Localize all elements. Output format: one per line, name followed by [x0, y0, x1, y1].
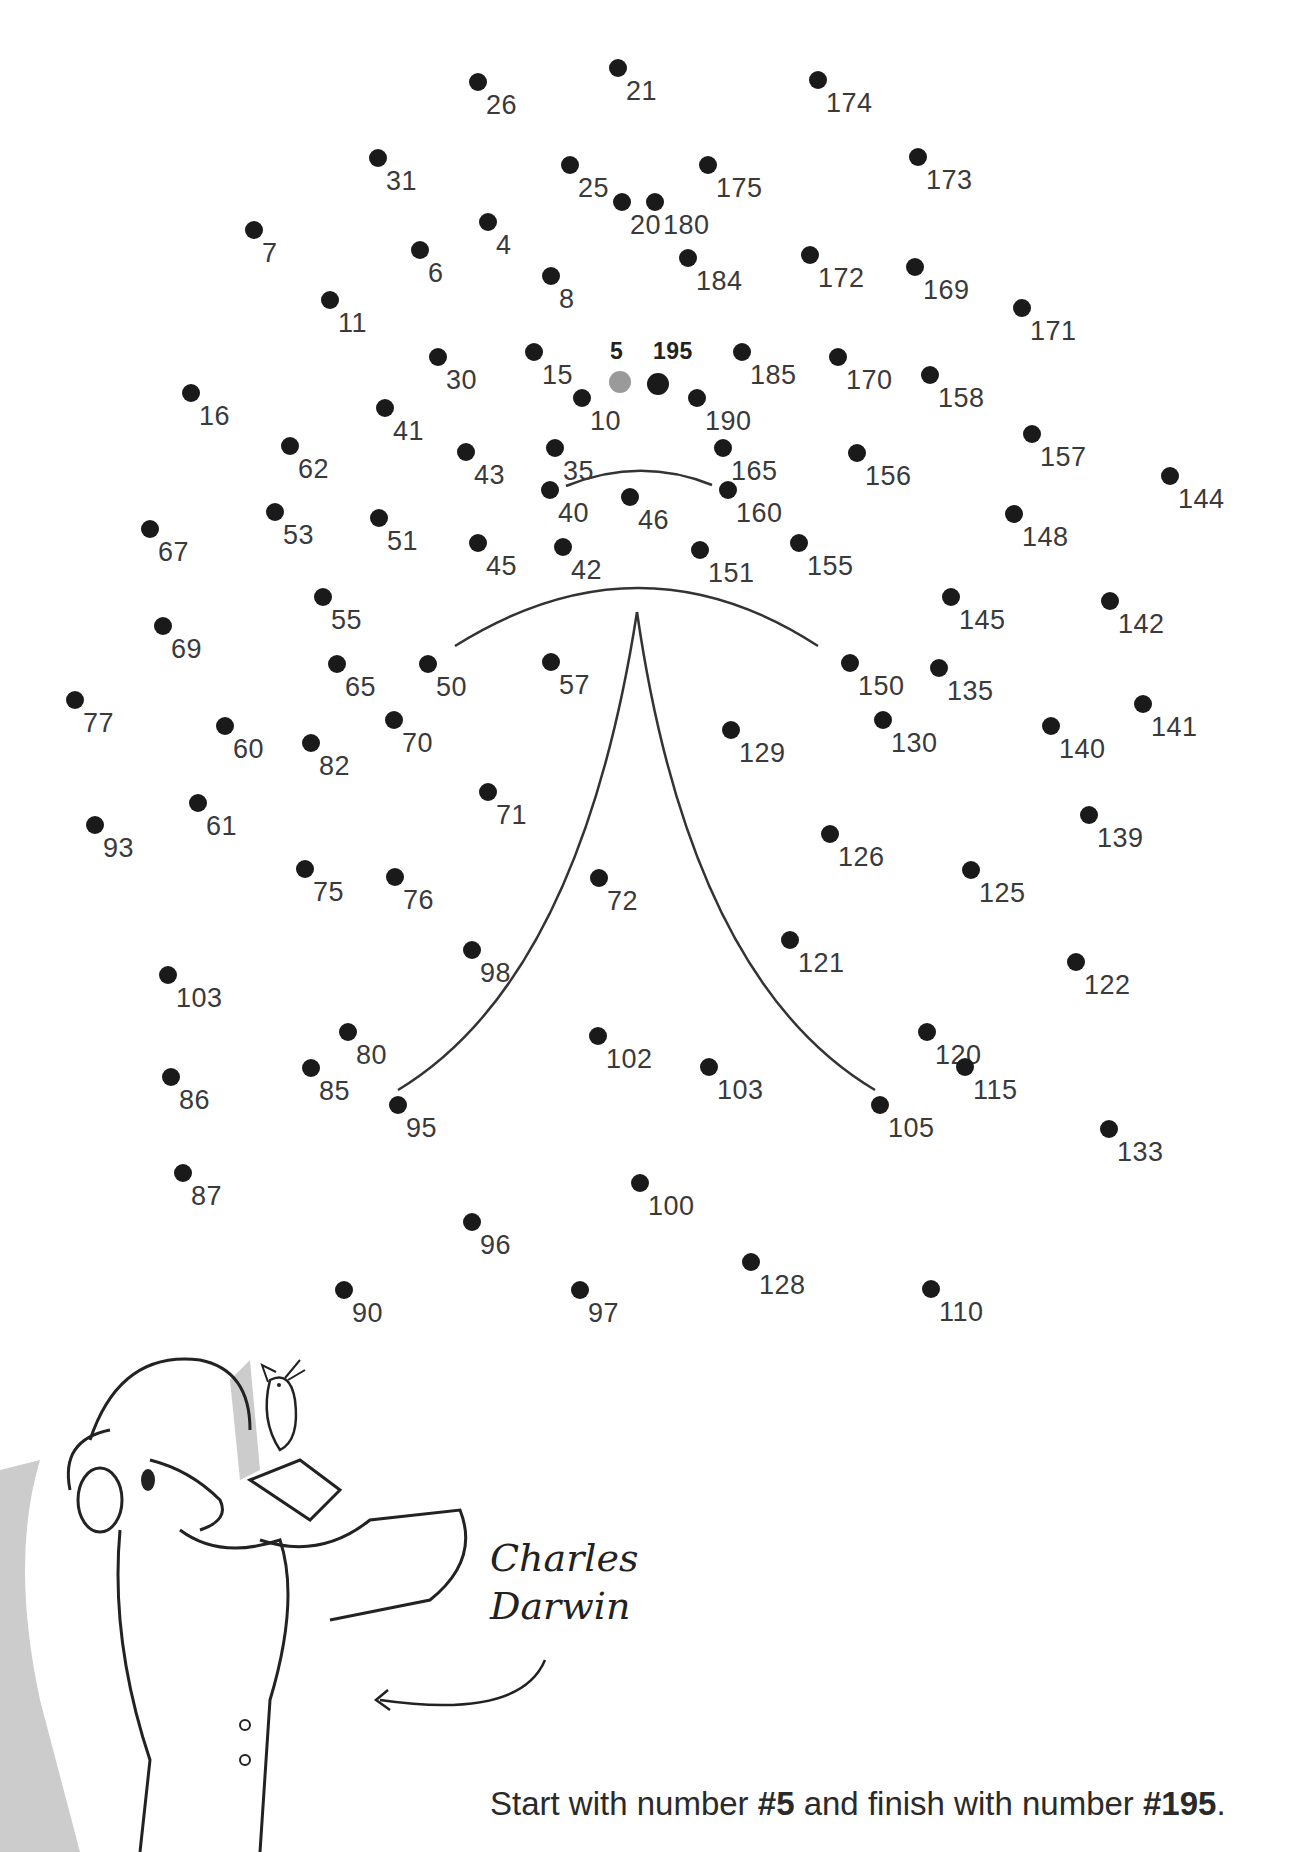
- dot-7[interactable]: [245, 221, 263, 239]
- dot-70[interactable]: [385, 711, 403, 729]
- instructions-middle: and finish with number: [795, 1785, 1144, 1822]
- dot-165[interactable]: [714, 439, 732, 457]
- dot-125[interactable]: [962, 861, 980, 879]
- dot-129[interactable]: [722, 721, 740, 739]
- dot-169[interactable]: [906, 258, 924, 276]
- dot-30[interactable]: [429, 348, 447, 366]
- dot-90[interactable]: [335, 1281, 353, 1299]
- dot-4[interactable]: [479, 213, 497, 231]
- dot-145[interactable]: [942, 588, 960, 606]
- dot-53[interactable]: [266, 503, 284, 521]
- dot-46[interactable]: [621, 488, 639, 506]
- dot-158[interactable]: [921, 366, 939, 384]
- dot-142[interactable]: [1101, 592, 1119, 610]
- dot-174[interactable]: [809, 71, 827, 89]
- dot-100[interactable]: [631, 1174, 649, 1192]
- dot-160[interactable]: [719, 481, 737, 499]
- dot-50[interactable]: [419, 655, 437, 673]
- dot-185[interactable]: [733, 343, 751, 361]
- dot-16[interactable]: [182, 384, 200, 402]
- dot-180[interactable]: [646, 193, 664, 211]
- dot-121[interactable]: [781, 931, 799, 949]
- dot-110[interactable]: [922, 1280, 940, 1298]
- dot-15[interactable]: [525, 343, 543, 361]
- dot-105[interactable]: [871, 1096, 889, 1114]
- dot-6[interactable]: [411, 241, 429, 259]
- dot-20[interactable]: [613, 193, 631, 211]
- dot-77[interactable]: [66, 691, 84, 709]
- dot-173[interactable]: [909, 148, 927, 166]
- finish-dot[interactable]: [647, 373, 669, 395]
- dot-95[interactable]: [389, 1096, 407, 1114]
- dot-135[interactable]: [930, 659, 948, 677]
- dot-55[interactable]: [314, 588, 332, 606]
- dot-61[interactable]: [189, 794, 207, 812]
- dot-label: 15: [542, 362, 573, 389]
- dot-85[interactable]: [302, 1059, 320, 1077]
- dot-51[interactable]: [370, 509, 388, 527]
- dot-41[interactable]: [376, 399, 394, 417]
- dot-72[interactable]: [590, 869, 608, 887]
- dot-96[interactable]: [463, 1213, 481, 1231]
- dot-141[interactable]: [1134, 695, 1152, 713]
- dot-98[interactable]: [463, 941, 481, 959]
- dot-31[interactable]: [369, 149, 387, 167]
- dot-11[interactable]: [321, 291, 339, 309]
- dot-139[interactable]: [1080, 806, 1098, 824]
- dot-102[interactable]: [589, 1027, 607, 1045]
- dot-69[interactable]: [154, 617, 172, 635]
- dot-170[interactable]: [829, 348, 847, 366]
- dot-43[interactable]: [457, 443, 475, 461]
- dot-42[interactable]: [554, 538, 572, 556]
- dot-115[interactable]: [956, 1058, 974, 1076]
- dot-97[interactable]: [571, 1281, 589, 1299]
- dot-126[interactable]: [821, 825, 839, 843]
- dot-80[interactable]: [339, 1023, 357, 1041]
- dot-130[interactable]: [874, 711, 892, 729]
- dot-25[interactable]: [561, 156, 579, 174]
- dot-133[interactable]: [1100, 1120, 1118, 1138]
- dot-175[interactable]: [699, 156, 717, 174]
- dot-label: 122: [1084, 972, 1131, 999]
- dot-35[interactable]: [546, 439, 564, 457]
- dot-67[interactable]: [141, 520, 159, 538]
- dot-87[interactable]: [174, 1164, 192, 1182]
- dot-190[interactable]: [688, 389, 706, 407]
- dot-151[interactable]: [691, 541, 709, 559]
- caption-line-2: Darwin: [490, 1583, 639, 1631]
- dot-21[interactable]: [609, 59, 627, 77]
- dot-label: 43: [474, 462, 505, 489]
- dot-156[interactable]: [848, 444, 866, 462]
- dot-157[interactable]: [1023, 425, 1041, 443]
- dot-45[interactable]: [469, 534, 487, 552]
- dot-128[interactable]: [742, 1253, 760, 1271]
- dot-103[interactable]: [159, 966, 177, 984]
- dot-60[interactable]: [216, 717, 234, 735]
- start-dot[interactable]: [609, 371, 631, 393]
- caption-line-1: Charles: [490, 1535, 639, 1583]
- dot-86[interactable]: [162, 1068, 180, 1086]
- dot-184[interactable]: [679, 249, 697, 267]
- dot-140[interactable]: [1042, 717, 1060, 735]
- dot-155[interactable]: [790, 534, 808, 552]
- dot-148[interactable]: [1005, 505, 1023, 523]
- dot-8[interactable]: [542, 267, 560, 285]
- dot-71[interactable]: [479, 783, 497, 801]
- dot-62[interactable]: [281, 437, 299, 455]
- dot-76[interactable]: [386, 868, 404, 886]
- dot-26[interactable]: [469, 73, 487, 91]
- dot-65[interactable]: [328, 655, 346, 673]
- dot-10[interactable]: [573, 389, 591, 407]
- dot-172[interactable]: [801, 246, 819, 264]
- dot-75[interactable]: [296, 860, 314, 878]
- dot-144[interactable]: [1161, 467, 1179, 485]
- dot-40[interactable]: [541, 481, 559, 499]
- dot-120[interactable]: [918, 1023, 936, 1041]
- dot-57[interactable]: [542, 653, 560, 671]
- dot-103[interactable]: [700, 1058, 718, 1076]
- dot-93[interactable]: [86, 816, 104, 834]
- dot-171[interactable]: [1013, 299, 1031, 317]
- dot-150[interactable]: [841, 654, 859, 672]
- dot-82[interactable]: [302, 734, 320, 752]
- dot-122[interactable]: [1067, 953, 1085, 971]
